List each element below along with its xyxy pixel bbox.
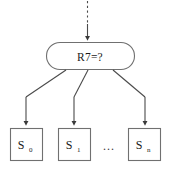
diagram-canvas: R7=? S 0 S 1 ... <box>0 0 170 173</box>
leaf-subscript-sn: n <box>147 146 151 154</box>
leaf-label-s0: S <box>18 138 25 152</box>
branch-edge-to-s1 <box>74 70 88 123</box>
leaf-ellipsis: ... <box>103 139 115 153</box>
leaf-subscript-s1: 1 <box>77 146 81 154</box>
decision-tree-diagram: R7=? S 0 S 1 ... <box>0 0 170 173</box>
leaf-node-s1[interactable]: S 1 <box>59 129 91 161</box>
leaf-label-sn: S <box>136 138 143 152</box>
leaf-label-s1: S <box>66 138 73 152</box>
branch-edge-to-s0 <box>26 70 66 123</box>
branch-edge-to-sn <box>113 70 145 123</box>
leaf-node-s0[interactable]: S 0 <box>11 129 43 161</box>
leaf-node-sn[interactable]: S n <box>129 129 161 161</box>
decision-node-label: R7=? <box>77 51 103 63</box>
decision-node-r7[interactable]: R7=? <box>47 43 135 70</box>
leaf-subscript-s0: 0 <box>29 146 33 154</box>
